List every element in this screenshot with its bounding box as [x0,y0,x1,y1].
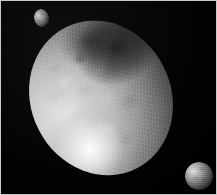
moon-lower-right-disc [185,162,213,190]
image-frame: Elongated ellipsoidal dwarf planet Small… [0,0,217,195]
moon-lower-right [185,162,213,190]
